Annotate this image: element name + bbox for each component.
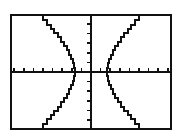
calculator-graph-screen[interactable] <box>10 14 172 130</box>
curve-left-branch-upper <box>43 16 75 72</box>
curve-right-branch-upper <box>107 16 139 72</box>
curve-right-branch-lower <box>107 72 139 128</box>
calculator-screenshot <box>0 0 181 138</box>
curve-left-branch-lower <box>43 72 75 128</box>
hyperbola-plot <box>12 16 170 128</box>
